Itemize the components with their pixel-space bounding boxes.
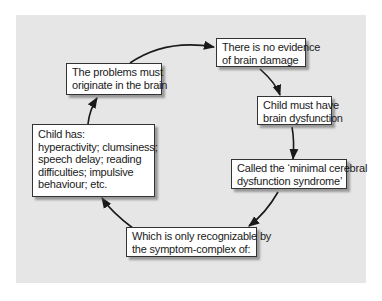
arrow-mcd-syndrome-to-symptom-complex bbox=[249, 192, 278, 226]
node-child-has: Child has: hyperactivity; clumsiness; sp… bbox=[32, 124, 155, 197]
node-text-line: There is no evidence bbox=[222, 41, 301, 54]
node-text-line: Child must have bbox=[263, 99, 327, 112]
arrow-no-evidence-to-brain-dysfunction bbox=[260, 69, 280, 95]
node-text-line: dysfunction syndrome’ bbox=[237, 175, 342, 188]
node-text-line: originate in the brain bbox=[72, 79, 157, 92]
node-text-line: The problems must bbox=[72, 66, 157, 79]
node-brain-origin: The problems must originate in the brain bbox=[66, 63, 162, 95]
node-text-line: Which is only recognizable by bbox=[132, 230, 252, 243]
arrow-brain-dysfunction-to-mcd-syndrome bbox=[292, 127, 294, 159]
node-text-line: Called the ‘minimal cerebral bbox=[237, 162, 342, 175]
node-mcd-syndrome: Called the ‘minimal cerebral dysfunction… bbox=[231, 159, 347, 189]
arrow-child-has-to-brain-origin bbox=[88, 98, 97, 124]
node-symptom-complex: Which is only recognizable by the sympto… bbox=[126, 227, 257, 257]
node-brain-dysfunction: Child must have brain dysfunction bbox=[257, 96, 332, 125]
arrow-symptom-complex-to-child-has bbox=[102, 198, 134, 229]
node-text-line: hyperactivity; clumsiness; bbox=[38, 141, 150, 154]
node-text-line: difficulties; impulsive bbox=[38, 166, 150, 179]
node-text-line: speech delay; reading bbox=[38, 153, 150, 166]
node-text-line: the symptom-complex of: bbox=[132, 243, 252, 256]
node-text-line: Child has: bbox=[38, 128, 150, 141]
arrow-brain-origin-to-no-evidence bbox=[130, 45, 214, 63]
node-text-line: behaviour; etc. bbox=[38, 178, 150, 191]
node-text-line: brain dysfunction bbox=[263, 112, 327, 125]
node-text-line: of brain damage bbox=[222, 54, 301, 67]
node-no-evidence: There is no evidence of brain damage bbox=[216, 38, 306, 67]
